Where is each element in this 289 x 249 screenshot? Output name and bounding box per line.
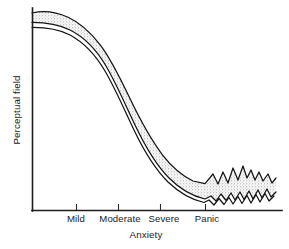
tick-label-panic: Panic <box>195 213 220 224</box>
x-axis-title: Anxiety <box>130 229 163 240</box>
y-axis-title: Perceptual field <box>11 75 22 144</box>
tick-label-moderate: Moderate <box>99 213 140 224</box>
tick-label-mild: Mild <box>67 213 85 224</box>
band-stipple-overlay <box>32 12 276 201</box>
chart-figure: Mild Moderate Severe Panic Anxiety Perce… <box>0 0 289 249</box>
band-stipple-fill <box>32 12 276 201</box>
x-axis-ticks <box>77 204 206 210</box>
tick-label-severe: Severe <box>149 213 180 224</box>
perceptual-field-anxiety-chart: Mild Moderate Severe Panic Anxiety Perce… <box>0 0 289 249</box>
perceptual-field-band <box>32 12 276 201</box>
x-axis-tick-labels: Mild Moderate Severe Panic <box>67 213 219 224</box>
lower-bound-curve <box>32 22 276 201</box>
